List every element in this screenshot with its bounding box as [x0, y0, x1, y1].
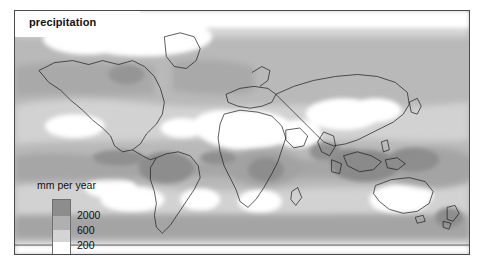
legend-swatch-600-2000: [53, 216, 70, 230]
legend-swatch-below-200: [53, 242, 70, 255]
legend-title: mm per year: [37, 179, 96, 191]
legend-tick-labels: 2000 600 200: [77, 199, 141, 255]
page-title: precipitation: [29, 16, 96, 28]
legend: mm per year 2000 600 200: [33, 179, 143, 255]
legend-swatch-200-600: [53, 230, 70, 242]
legend-colorbar: [52, 199, 71, 255]
legend-label-200: 200: [77, 239, 95, 251]
map-title-box: precipitation: [15, 11, 140, 37]
legend-label-600: 600: [77, 224, 95, 236]
world-precipitation-map: precipitation mm per year 2000 600 200: [14, 10, 470, 255]
legend-label-2000: 2000: [77, 209, 100, 221]
legend-swatch-above-2000: [53, 200, 70, 216]
precipitation-figure: precipitation mm per year 2000 600 200: [0, 0, 488, 277]
